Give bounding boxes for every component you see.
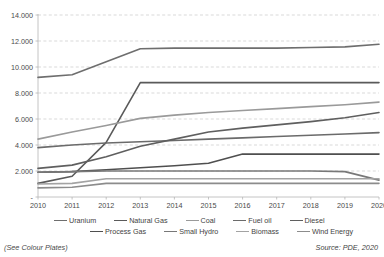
chart-plot-area: 14.00012.00010.0008.0006.0004.0002.000- …	[0, 0, 384, 213]
legend-item-uranium[interactable]: Uranium	[54, 216, 96, 225]
legend-item-label: Coal	[201, 216, 216, 225]
legend-swatch-icon	[186, 220, 199, 221]
series-line-coal	[38, 102, 379, 139]
svg-text:6.000: 6.000	[15, 115, 33, 124]
svg-text:2014: 2014	[166, 201, 182, 210]
legend-swatch-icon	[54, 220, 67, 221]
source-note: Source: PDE, 2020	[316, 243, 378, 252]
svg-text:8.000: 8.000	[15, 89, 33, 98]
svg-text:2011: 2011	[64, 201, 79, 210]
legend-swatch-icon	[236, 231, 249, 232]
svg-text:2013: 2013	[132, 201, 148, 210]
legend-item-biomass[interactable]: Biomass	[236, 227, 279, 236]
legend-row-1: UraniumNatural GasCoalFuel oilDiesel	[0, 215, 384, 226]
svg-text:10.000: 10.000	[11, 63, 33, 72]
series-line-wind-energy	[38, 183, 379, 188]
legend-item-label: Wind Energy	[312, 227, 353, 236]
x-tick-labels: 2010201120122013201420152016201720182019…	[30, 197, 384, 210]
svg-text:2019: 2019	[337, 201, 353, 210]
legend-swatch-icon	[114, 220, 127, 221]
series-line-fuel-oil	[38, 133, 379, 148]
series-line-natural-gas	[38, 83, 379, 184]
legend-item-label: Natural Gas	[129, 216, 167, 225]
figure-container: 14.00012.00010.0008.0006.0004.0002.000- …	[0, 0, 384, 257]
svg-text:2020: 2020	[371, 201, 384, 210]
svg-text:2010: 2010	[30, 201, 46, 210]
svg-text:2016: 2016	[235, 201, 251, 210]
legend-item-label: Diesel	[305, 216, 325, 225]
colour-plates-note: (See Colour Plates)	[4, 243, 68, 252]
legend-item-label: Fuel oil	[248, 216, 271, 225]
svg-text:2015: 2015	[201, 201, 217, 210]
svg-text:2018: 2018	[303, 201, 319, 210]
legend-item-label: Uranium	[69, 216, 96, 225]
legend-item-label: Process Gas	[105, 227, 146, 236]
data-series-group	[38, 44, 379, 188]
svg-text:2017: 2017	[269, 201, 285, 210]
legend-item-wind-energy[interactable]: Wind Energy	[297, 227, 353, 236]
legend-swatch-icon	[297, 231, 310, 232]
legend-swatch-icon	[233, 220, 246, 221]
svg-text:2012: 2012	[98, 201, 114, 210]
svg-text:14.000: 14.000	[11, 11, 33, 20]
y-tick-labels: 14.00012.00010.0008.0006.0004.0002.000-	[11, 11, 38, 202]
legend-swatch-icon	[90, 231, 103, 232]
legend-item-diesel[interactable]: Diesel	[290, 216, 325, 225]
legend-item-label: Biomass	[251, 227, 279, 236]
series-line-process-gas	[38, 154, 379, 172]
legend-item-small-hydro[interactable]: Small Hydro	[164, 227, 218, 236]
legend-item-natural-gas[interactable]: Natural Gas	[114, 216, 167, 225]
legend-swatch-icon	[290, 220, 303, 221]
svg-text:2.000: 2.000	[15, 167, 33, 176]
legend-row-2: Process GasSmall HydroBiomassWind Energy	[0, 226, 384, 237]
legend-swatch-icon	[164, 231, 177, 232]
legend-item-coal[interactable]: Coal	[186, 216, 216, 225]
svg-text:4.000: 4.000	[15, 141, 33, 150]
series-line-uranium	[38, 44, 379, 77]
chart-legend: UraniumNatural GasCoalFuel oilDiesel Pro…	[0, 215, 384, 239]
svg-text:12.000: 12.000	[11, 37, 33, 46]
line-chart: 14.00012.00010.0008.0006.0004.0002.000- …	[0, 0, 384, 213]
legend-item-process-gas[interactable]: Process Gas	[90, 227, 146, 236]
legend-item-fuel-oil[interactable]: Fuel oil	[233, 216, 271, 225]
gridlines-group	[38, 15, 379, 171]
legend-item-label: Small Hydro	[179, 227, 218, 236]
